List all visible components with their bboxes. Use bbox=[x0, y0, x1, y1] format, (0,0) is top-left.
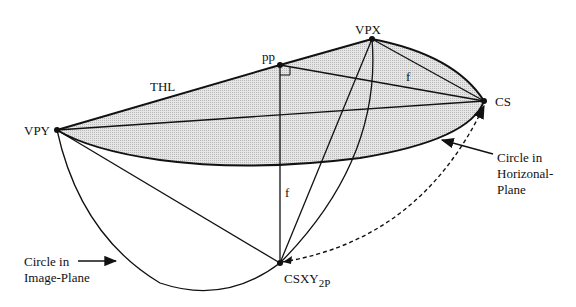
label-vpy: VPY bbox=[24, 123, 51, 138]
point-pp bbox=[277, 62, 283, 68]
label-f-vertical: f bbox=[285, 185, 290, 200]
annotation-horizontal-circle-line3: Plane bbox=[497, 182, 526, 197]
label-vpx: VPX bbox=[355, 22, 382, 37]
label-cs: CS bbox=[495, 94, 511, 109]
point-csxy2p bbox=[277, 260, 283, 266]
label-pp: pp bbox=[262, 49, 275, 64]
label-thl: THL bbox=[150, 79, 175, 94]
csxy2p-arrowhead-icon bbox=[283, 256, 292, 264]
annotation-horizontal-circle-line2: Horizonal- bbox=[497, 166, 553, 181]
annotation-horizontal-circle-line1: Circle in bbox=[497, 150, 543, 165]
point-cs bbox=[481, 98, 487, 104]
horizontal-circle-pointer bbox=[442, 140, 493, 154]
vanishing-point-diagram: VPY pp VPX CS CSXY2P THL f f Circle in H… bbox=[0, 0, 576, 307]
label-csxy2p: CSXY2P bbox=[284, 271, 330, 289]
label-f-horizontal: f bbox=[406, 69, 411, 84]
annotation-image-circle-line2: Image-Plane bbox=[24, 270, 90, 285]
point-vpy bbox=[54, 127, 60, 133]
annotation-image-circle-line1: Circle in bbox=[24, 254, 70, 269]
